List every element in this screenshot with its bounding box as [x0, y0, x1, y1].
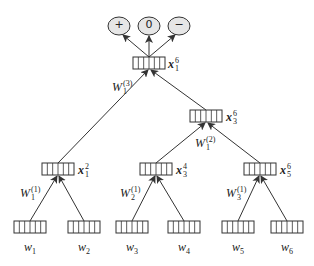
tree-diagram [0, 0, 314, 266]
mid-vector-1 [42, 163, 74, 175]
mid-label-3-sub: 5 [287, 171, 291, 179]
root-label-sub: 1 [175, 65, 179, 73]
mid-weight-label-3: W(1)3 [226, 186, 246, 202]
mid-weight-label-2: W(1)2 [120, 186, 140, 202]
leaf-vector-3 [116, 221, 148, 233]
leaf-vector-4 [168, 221, 200, 233]
leaf-1-base: w [24, 240, 32, 254]
leaf-4-sub: 4 [186, 247, 190, 256]
leaf-3-base: w [126, 240, 134, 254]
leaf-vector-1 [14, 221, 46, 233]
leaf-6-base: w [281, 240, 289, 254]
mid-vector-2 [140, 163, 172, 175]
inner-right-sub: 3 [233, 118, 237, 126]
root-weight-base: W [112, 80, 122, 94]
leaf-label-4: w4 [178, 240, 190, 255]
leaf-5-base: w [232, 240, 240, 254]
leaf-label-3: w3 [126, 240, 138, 255]
leaf-label-2: w2 [78, 240, 90, 255]
mid-weight-label-1: W(1)1 [20, 186, 40, 202]
leaf-2-base: w [78, 240, 86, 254]
inner-right-base: x [226, 110, 232, 124]
leaf-vector-6 [271, 221, 303, 233]
root-label: x61 [168, 57, 179, 73]
mid-weight-3-base: W [226, 186, 236, 200]
leaf-3-sub: 3 [134, 247, 138, 256]
root-weight-sub: 1 [123, 88, 132, 96]
leaf-label-6: w6 [281, 240, 293, 255]
mid-weight-1-sub: 1 [31, 194, 40, 202]
mid-label-3: x65 [280, 163, 291, 179]
mid-weight-1-base: W [20, 186, 30, 200]
mid-weight-2-sub: 2 [131, 194, 140, 202]
inner-right-vector [190, 110, 222, 122]
mid-label-1-sub: 1 [85, 171, 89, 179]
inner-right-weight-label: W(2)1 [195, 136, 215, 152]
root-vector [133, 57, 165, 69]
inner-right-label: x63 [226, 110, 237, 126]
output-label-negative: − [169, 18, 189, 31]
inner-right-weight-sub: 1 [206, 144, 215, 152]
leaf-label-5: w5 [232, 240, 244, 255]
mid-label-2-sub: 3 [183, 171, 187, 179]
leaf-6-sub: 6 [289, 247, 293, 256]
mid-label-1: x21 [78, 163, 89, 179]
leaf-1-sub: 1 [32, 247, 36, 256]
mid-label-3-base: x [280, 163, 286, 177]
root-weight-label: W(3)1 [112, 80, 132, 96]
leaf-label-1: w1 [24, 240, 36, 255]
inner-right-weight-base: W [195, 136, 205, 150]
leaf-vector-5 [222, 221, 254, 233]
leaf-2-sub: 2 [86, 247, 90, 256]
mid-label-2: x43 [176, 163, 187, 179]
leaf-4-base: w [178, 240, 186, 254]
mid-weight-2-base: W [120, 186, 130, 200]
leaf-5-sub: 5 [240, 247, 244, 256]
root-label-base: x [168, 57, 174, 71]
mid-label-2-base: x [176, 163, 182, 177]
leaf-vector-2 [68, 221, 100, 233]
mid-vector-3 [244, 163, 276, 175]
mid-weight-3-sub: 3 [237, 194, 246, 202]
mid-label-1-base: x [78, 163, 84, 177]
output-label-neutral: 0 [139, 18, 159, 31]
output-label-positive: + [109, 18, 129, 31]
